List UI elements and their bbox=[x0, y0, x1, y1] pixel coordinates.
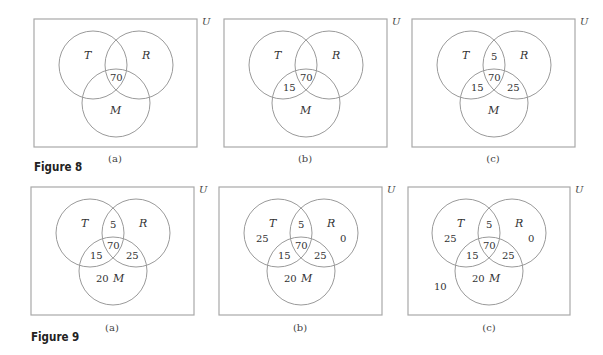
region-t: 25 bbox=[444, 233, 457, 244]
universe-label: U bbox=[387, 184, 396, 195]
universe-label: U bbox=[580, 16, 589, 27]
universe-label: U bbox=[202, 16, 211, 27]
set-label-m: M bbox=[112, 272, 125, 285]
universe-box bbox=[412, 19, 575, 147]
venn-diagram: T R M 70 U bbox=[34, 19, 204, 159]
set-label-r: R bbox=[141, 49, 150, 62]
region-tr: 5 bbox=[486, 219, 492, 230]
region-tm: 15 bbox=[90, 250, 103, 261]
venn-diagram: T R M 70 15 U bbox=[224, 19, 394, 159]
venn-diagram: T R M 5 70 15 25 20 U bbox=[31, 187, 201, 327]
set-label-t: T bbox=[462, 49, 471, 62]
set-label-r: R bbox=[138, 217, 147, 230]
set-label-m: M bbox=[109, 104, 122, 117]
set-label-m: M bbox=[299, 104, 312, 117]
set-circle-r bbox=[295, 31, 363, 99]
region-m: 20 bbox=[96, 273, 109, 284]
region-r: 0 bbox=[528, 233, 534, 244]
panel-caption: (b) bbox=[280, 322, 320, 333]
region-tr: 5 bbox=[110, 219, 116, 230]
set-label-m: M bbox=[300, 272, 313, 285]
region-tm: 15 bbox=[283, 82, 296, 93]
region-rm: 25 bbox=[126, 250, 139, 261]
figure-title: Figure 9 bbox=[31, 330, 79, 344]
region-outside: 10 bbox=[434, 281, 447, 292]
set-label-m: M bbox=[488, 272, 501, 285]
venn-diagram: T R M 25 0 5 70 15 25 20 10 U bbox=[408, 187, 578, 327]
region-rm: 25 bbox=[502, 250, 515, 261]
universe-label: U bbox=[392, 16, 401, 27]
set-circle-t bbox=[59, 31, 127, 99]
set-label-t: T bbox=[84, 49, 93, 62]
region-tr: 5 bbox=[491, 51, 497, 62]
set-label-t: T bbox=[81, 217, 90, 230]
region-r: 0 bbox=[340, 233, 346, 244]
universe-box bbox=[408, 187, 570, 315]
region-t: 25 bbox=[256, 233, 269, 244]
region-trm: 70 bbox=[488, 72, 501, 83]
panel-caption: (a) bbox=[92, 322, 132, 333]
set-circle-r bbox=[105, 31, 173, 99]
region-m: 20 bbox=[284, 273, 297, 284]
set-label-t: T bbox=[274, 49, 283, 62]
region-trm: 70 bbox=[300, 72, 313, 83]
region-m: 20 bbox=[472, 273, 485, 284]
set-label-t: T bbox=[457, 217, 466, 230]
venn-diagram: T R M 25 0 5 70 15 25 20 U bbox=[219, 187, 389, 327]
panel-caption: (c) bbox=[473, 153, 513, 164]
set-label-r: R bbox=[519, 49, 528, 62]
region-trm: 70 bbox=[295, 240, 308, 251]
universe-label: U bbox=[575, 184, 584, 195]
region-trm: 70 bbox=[107, 240, 120, 251]
region-rm: 25 bbox=[314, 250, 327, 261]
set-label-r: R bbox=[514, 217, 523, 230]
panel-caption: (b) bbox=[285, 153, 325, 164]
region-tr: 5 bbox=[298, 219, 304, 230]
region-rm: 25 bbox=[507, 82, 520, 93]
universe-label: U bbox=[199, 184, 208, 195]
universe-box bbox=[219, 187, 382, 315]
set-label-r: R bbox=[331, 49, 340, 62]
set-label-r: R bbox=[326, 217, 335, 230]
panel-caption: (a) bbox=[95, 153, 135, 164]
universe-box bbox=[34, 19, 197, 147]
set-label-m: M bbox=[487, 104, 500, 117]
figure-title: Figure 8 bbox=[34, 160, 82, 174]
region-tm: 15 bbox=[471, 82, 484, 93]
universe-box bbox=[31, 187, 194, 315]
region-trm: 70 bbox=[110, 72, 123, 83]
universe-box bbox=[224, 19, 387, 147]
region-tm: 15 bbox=[466, 250, 479, 261]
set-label-t: T bbox=[269, 217, 278, 230]
region-tm: 15 bbox=[278, 250, 291, 261]
venn-diagram: T R M 5 70 15 25 U bbox=[412, 19, 582, 159]
panel-caption: (c) bbox=[469, 322, 509, 333]
region-trm: 70 bbox=[483, 240, 496, 251]
